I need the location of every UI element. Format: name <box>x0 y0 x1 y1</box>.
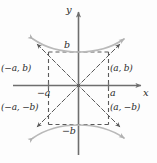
tick-label-a: a <box>110 88 115 98</box>
point-label-top-left: (−a, b) <box>1 64 31 73</box>
tick-label-b: b <box>64 40 70 50</box>
hyperbola-figure: y x b −b −a a (−a, b) (a, b) (−a, −b) (a… <box>0 0 157 163</box>
point-label-top-right: (a, b) <box>110 64 133 73</box>
tick-label-neg-b: −b <box>62 126 76 136</box>
x-axis-label: x <box>143 88 148 98</box>
point-label-bottom-left: (−a, −b) <box>1 103 38 112</box>
y-axis-label: y <box>66 5 71 15</box>
point-label-bottom-right: (a, −b) <box>110 103 140 112</box>
tick-label-neg-a: −a <box>37 88 50 98</box>
hyperbola-graphic <box>0 0 157 163</box>
